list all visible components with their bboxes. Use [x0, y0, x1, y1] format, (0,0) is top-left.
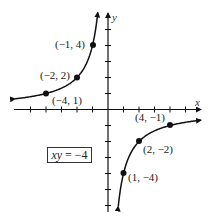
hyperbola-graph: x y (−4, 1) (−2, 2) (−1, 4) (4, −1) (2, …	[0, 0, 209, 220]
point-m4-1	[43, 91, 49, 97]
point-m1-4	[90, 42, 96, 48]
x-axis-label: x	[194, 96, 200, 108]
y-axis: y	[105, 11, 117, 212]
label-point-m4-1: (−4, 1)	[52, 94, 82, 107]
point-1-m4	[121, 170, 127, 176]
label-point-2-m2: (2, −2)	[143, 143, 173, 156]
label-point-m2-2: (−2, 2)	[40, 69, 70, 82]
point-4-m1	[167, 122, 173, 128]
hyperbola-branch-right	[118, 120, 201, 206]
hyperbola-branch-left	[15, 13, 98, 99]
point-m2-2	[74, 75, 80, 81]
point-2-m2	[136, 138, 142, 144]
equation-rhs: = −4	[62, 148, 88, 162]
y-axis-label: y	[111, 11, 117, 23]
label-point-4-m1: (4, −1)	[135, 111, 165, 124]
label-point-1-m4: (1, −4)	[128, 171, 158, 184]
equation-lhs: xy	[51, 148, 62, 162]
label-point-m1-4: (−1, 4)	[55, 38, 85, 51]
equation-box: xy = −4	[47, 147, 92, 163]
